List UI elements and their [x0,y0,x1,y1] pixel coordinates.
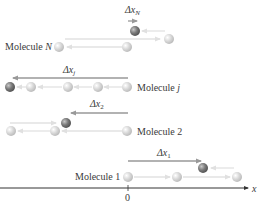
molecule-ball [232,172,242,182]
molecule-N-label: Molecule N [5,41,53,52]
molecule-ball [123,172,133,182]
delta-x: Δx [62,64,74,75]
molecule-ball [164,34,174,44]
subscript: 2 [100,103,104,111]
label-index: 1 [115,171,120,182]
molecule-j-label: Molecule j [137,82,180,93]
molecule-ball [26,82,36,92]
label-index: N [44,41,53,52]
molecule-2: Δx2 Molecule 2 [6,98,182,137]
label-prefix: Molecule [137,82,177,93]
molecule-ball-final [61,118,71,128]
molecule-j: Δxj Molecule j [5,64,180,93]
delta-x: Δx [89,98,101,109]
molecule-2-label: Molecule 2 [137,126,182,137]
label-prefix: Molecule [5,41,45,52]
subscript: N [134,9,140,17]
label-prefix: Molecule [137,126,177,137]
x-axis-label: x [251,183,257,194]
molecule-ball [122,82,132,92]
molecule-1: Δx1 Molecule 1 [75,147,242,182]
random-walk-diagram: 0 x Molecule N ΔxN Δxj Mole [0,0,260,204]
delta-x: Δx [156,147,168,158]
displacement-label-2: Δx2 [89,98,104,111]
label-prefix: Molecule [75,171,115,182]
molecule-ball-final [130,26,140,36]
delta-x: Δx [124,4,136,15]
molecule-ball [122,42,132,52]
x-axis: 0 x [0,183,257,203]
molecule-N: Molecule N ΔxN [5,4,174,52]
molecule-ball [63,82,73,92]
label-index: 2 [177,126,182,137]
subscript: j [72,69,75,77]
origin-label: 0 [125,192,130,203]
displacement-label-j: Δxj [62,64,75,77]
subscript: 1 [167,152,171,160]
molecule-ball [50,126,60,136]
molecule-ball [6,126,16,136]
displacement-label-N: ΔxN [124,4,140,17]
molecule-ball [172,172,182,182]
molecule-1-label: Molecule 1 [75,171,120,182]
molecule-ball-final [198,163,208,173]
molecule-ball [54,42,64,52]
displacement-label-1: Δx1 [156,147,171,160]
molecule-ball-final [5,82,15,92]
molecule-ball [93,82,103,92]
molecule-ball [122,126,132,136]
